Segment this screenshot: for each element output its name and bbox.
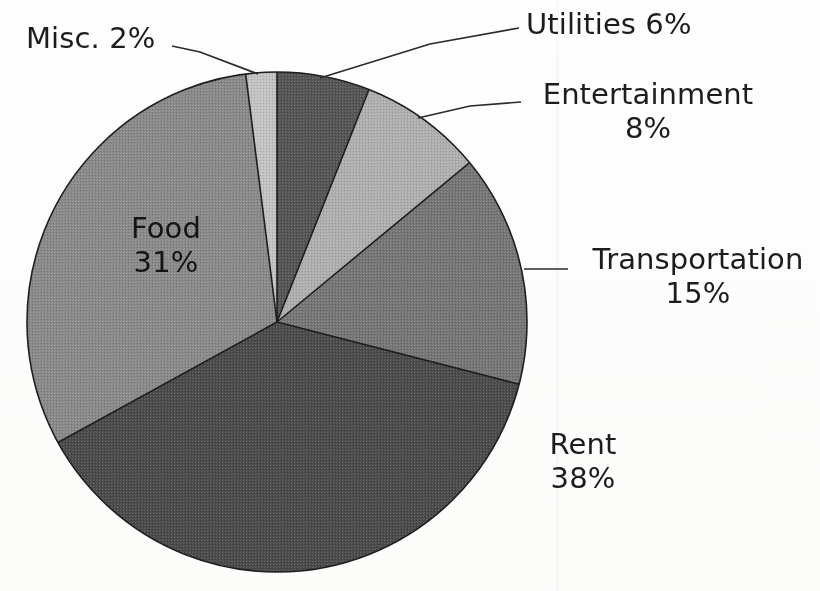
pie-label-entertainment-percent: 8% — [528, 112, 768, 146]
leader-line-entertainment — [418, 102, 521, 118]
pie-label-food-name: Food — [131, 211, 201, 245]
pie-label-food: Food 31% — [105, 212, 227, 280]
pie-label-misc: Misc. 2% — [26, 22, 155, 56]
leader-line-misc — [172, 46, 258, 74]
pie-label-food-percent: 31% — [105, 246, 227, 280]
pie-label-utilities: Utilities 6% — [526, 8, 692, 42]
pie-label-misc-text: Misc. 2% — [26, 21, 155, 55]
pie-label-transportation: Transportation 15% — [576, 243, 820, 311]
pie-chart-figure: Misc. 2% Utilities 6% Entertainment 8% T… — [0, 0, 820, 591]
pie-label-transportation-name: Transportation — [593, 242, 804, 276]
pie-label-rent-percent: 38% — [528, 462, 638, 496]
pie-label-rent: Rent 38% — [528, 428, 638, 496]
pie-label-rent-name: Rent — [550, 427, 617, 461]
pie-label-transportation-percent: 15% — [576, 277, 820, 311]
leader-line-utilities — [320, 28, 519, 78]
pie-label-entertainment-name: Entertainment — [543, 77, 754, 111]
pie-label-entertainment: Entertainment 8% — [528, 78, 768, 146]
pie-label-utilities-text: Utilities 6% — [526, 7, 692, 41]
